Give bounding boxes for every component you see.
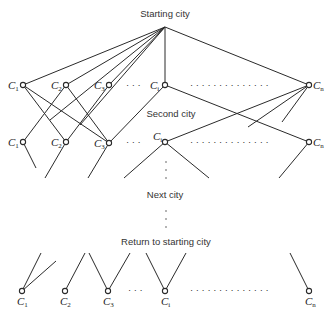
svg-text:· · ·: · · ·: [126, 136, 141, 147]
level2-edges: [23, 142, 309, 178]
svg-text:Cn: Cn: [305, 295, 316, 309]
label-cn: Cn: [313, 79, 324, 93]
ellipsis-long: · · · · · · · · · · · · · ·: [190, 79, 269, 90]
svg-text:C3: C3: [103, 295, 114, 309]
second-city-label: Second city: [146, 108, 195, 119]
level-1-nodes: C1 C2 C3 Ci Cn · · · · · · · · · · · · ·…: [8, 79, 324, 93]
svg-text:Ci: Ci: [161, 295, 170, 309]
label-c3: C3: [94, 79, 105, 93]
node-ci: [162, 82, 167, 87]
tree-diagram: Starting city: [0, 0, 333, 321]
starting-city-label: Starting city: [140, 8, 190, 19]
return-city-label: Return to starting city: [121, 236, 211, 247]
node-c2: [63, 82, 68, 87]
svg-text:Cn: Cn: [313, 136, 324, 150]
label-ci: Ci: [150, 79, 159, 93]
next-city-label: Next city: [147, 189, 184, 200]
label-c2: C2: [51, 79, 62, 93]
svg-text:· · ·: · · ·: [128, 284, 143, 295]
svg-text:C2: C2: [60, 295, 71, 309]
node-cn: [306, 82, 311, 87]
svg-text:· · · · · · · · · · · · · ·: · · · · · · · · · · · · · ·: [190, 136, 269, 147]
label-c1: C1: [8, 79, 19, 93]
svg-text:C1: C1: [8, 136, 19, 150]
node-c1: [20, 82, 25, 87]
node-c3: [106, 82, 111, 87]
level-2-nodes: C1 C2 C3 Ci Cn · · · · · · · · · · · · ·…: [8, 130, 324, 151]
svg-text:Ci: Ci: [153, 130, 162, 144]
svg-text:C2: C2: [51, 136, 62, 150]
svg-text:C1: C1: [17, 295, 28, 309]
ellipsis-short: · · ·: [126, 79, 141, 90]
svg-text:· · · · · · · · · · · · · ·: · · · · · · · · · · · · · ·: [190, 284, 269, 295]
